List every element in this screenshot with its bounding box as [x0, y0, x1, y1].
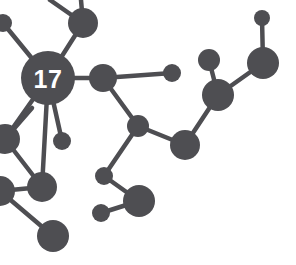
- node-center-junction[interactable]: [127, 115, 149, 137]
- node-center-lower-big[interactable]: [170, 130, 200, 160]
- node-mid-right-of-hub[interactable]: [89, 64, 117, 92]
- network-graph-canvas: 17: [0, 0, 296, 265]
- node-small-right-arm[interactable]: [163, 64, 181, 82]
- hub-node-label: 17: [34, 65, 63, 93]
- node-right-junction[interactable]: [202, 79, 234, 111]
- node-bottom-left[interactable]: [37, 220, 69, 252]
- node-below-hub-small[interactable]: [53, 132, 71, 150]
- node-top-center[interactable]: [68, 8, 98, 38]
- node-bottom-mid-tiny[interactable]: [92, 204, 110, 222]
- node-lower-left-a[interactable]: [27, 172, 57, 202]
- node-bottom-mid-small[interactable]: [95, 167, 113, 185]
- network-graph-svg: 17: [0, 0, 296, 265]
- label-layer: 17: [34, 65, 63, 93]
- node-right-upper-small[interactable]: [198, 49, 220, 71]
- node-bottom-mid-big[interactable]: [123, 185, 155, 217]
- node-right-big[interactable]: [247, 47, 279, 79]
- node-top-right-tiny[interactable]: [254, 10, 270, 26]
